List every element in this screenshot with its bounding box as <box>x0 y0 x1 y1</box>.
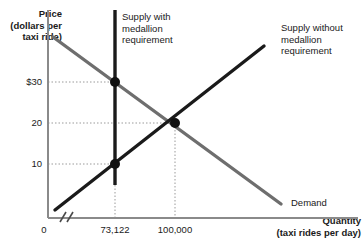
axis-lines <box>48 10 358 218</box>
free-market-equilibrium-point-marker <box>170 118 180 128</box>
supply-without-medallion-curve <box>55 46 264 210</box>
medallion-price-point-marker <box>110 77 120 87</box>
medallion-supply-cost-point-marker <box>110 159 120 169</box>
plot-area <box>0 0 363 252</box>
guidelines <box>48 82 175 218</box>
supply-demand-chart: Price (dollars per taxi ride) Quantity (… <box>0 0 363 252</box>
